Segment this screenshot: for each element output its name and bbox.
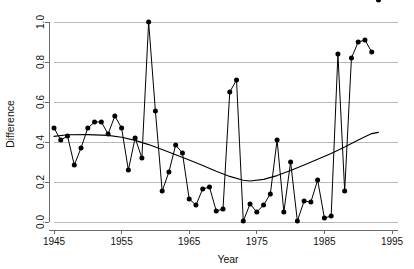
data-point (65, 134, 70, 139)
trend-line (54, 132, 378, 181)
data-point (72, 163, 77, 168)
data-point (329, 214, 334, 219)
data-point (106, 132, 111, 137)
data-point (214, 209, 219, 214)
x-tick-label-1975: 1975 (246, 236, 269, 247)
data-point (146, 20, 151, 25)
data-point (268, 192, 273, 197)
data-point (302, 199, 307, 204)
y-tick-label-1: 1.0 (35, 15, 46, 29)
x-tick-label-1985: 1985 (313, 236, 336, 247)
data-point (52, 126, 57, 131)
data-point (126, 168, 131, 173)
data-point (187, 197, 192, 202)
data-point (248, 202, 253, 207)
data-point (356, 40, 361, 45)
data-point (241, 219, 246, 224)
y-tick-labels-group: 0.00.20.40.60.81.0 (35, 15, 46, 229)
y-tick-label-0.6: 0.6 (35, 95, 46, 109)
data-point (234, 78, 239, 83)
data-point (295, 219, 300, 224)
data-points-group (52, 0, 381, 224)
data-point (315, 178, 320, 183)
y-tick-label-0.8: 0.8 (35, 55, 46, 69)
data-point (322, 216, 327, 221)
data-point (180, 151, 185, 156)
y-axis-title: Difference (4, 100, 16, 148)
chart-figure: 194519551965197519851995 0.00.20.40.60.8… (0, 0, 414, 269)
data-point (369, 50, 374, 55)
data-point (221, 207, 226, 212)
data-point (275, 138, 280, 143)
data-point (99, 120, 104, 125)
data-point (335, 52, 340, 57)
data-point (85, 126, 90, 131)
data-point (254, 210, 259, 215)
data-point (227, 90, 232, 95)
data-point (139, 156, 144, 161)
data-point (193, 203, 198, 208)
x-axis-title: Year (217, 253, 239, 265)
data-point (166, 170, 171, 175)
x-tick-label-1995: 1995 (381, 236, 404, 247)
data-point (349, 56, 354, 61)
x-tick-label-1945: 1945 (43, 236, 66, 247)
x-tick-label-1965: 1965 (178, 236, 201, 247)
chart-plot-area: 194519551965197519851995 0.00.20.40.60.8… (0, 0, 414, 269)
data-point (153, 109, 158, 114)
data-point (133, 136, 138, 141)
x-tick-label-1955: 1955 (110, 236, 133, 247)
data-point (376, 0, 381, 3)
data-point (288, 160, 293, 165)
y-tick-label-0.4: 0.4 (35, 135, 46, 149)
trend-line-group (54, 132, 378, 181)
data-point (160, 189, 165, 194)
y-tick-label-0: 0.0 (35, 215, 46, 229)
data-point (79, 146, 84, 151)
data-point (92, 120, 97, 125)
data-point (308, 200, 313, 205)
data-point (112, 114, 117, 119)
data-point (119, 126, 124, 131)
x-tick-labels-group: 194519551965197519851995 (43, 236, 404, 247)
data-point (342, 189, 347, 194)
y-tick-label-0.2: 0.2 (35, 175, 46, 189)
data-point (281, 210, 286, 215)
data-point (362, 38, 367, 43)
data-point (58, 138, 63, 143)
data-point (200, 187, 205, 192)
data-point (207, 185, 212, 190)
data-point (173, 143, 178, 148)
data-point (261, 203, 266, 208)
